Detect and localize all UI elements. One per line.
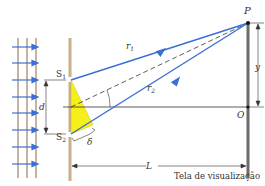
label-y: y (254, 62, 261, 72)
screen-caption: Tela de visualização (174, 171, 260, 181)
label-o: O (237, 110, 245, 120)
label-r1: r1 (126, 41, 134, 52)
point-o-dot (246, 105, 249, 108)
label-r2: r2 (147, 83, 155, 94)
label-p: P (243, 5, 251, 16)
center-to-p-dashed (71, 23, 248, 107)
label-s2: S2 (56, 132, 66, 143)
d-dimension (44, 80, 66, 134)
theta-arc (107, 90, 110, 107)
viewing-screen (247, 22, 250, 178)
rays (71, 23, 248, 134)
label-l: L (145, 161, 152, 171)
point-p-dot (246, 21, 250, 25)
incoming-light-arrows (12, 45, 38, 167)
l-dimension (72, 164, 246, 168)
label-delta: δ (87, 137, 92, 147)
label-s1: S1 (56, 69, 66, 80)
wavefronts (18, 38, 36, 178)
double-slit-diagram: P O y d L δ S1 S2 r1 r2 Tela de visualiz… (0, 0, 265, 186)
label-d: d (39, 102, 45, 112)
